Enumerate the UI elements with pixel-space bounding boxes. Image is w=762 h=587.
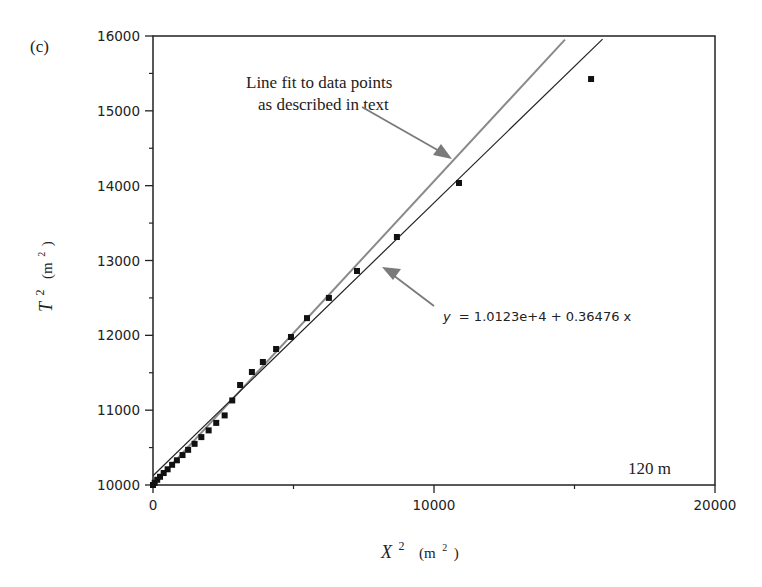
data-point <box>237 382 243 388</box>
y-axis-label: T 2 (m 2 ) <box>28 241 56 312</box>
x-axis-label: X 2 (m 2 ) <box>380 534 459 562</box>
data-point <box>304 315 310 321</box>
y-tick-label: 13000 <box>97 253 140 269</box>
data-point <box>185 447 191 453</box>
x-tick-label: 20000 <box>694 497 737 513</box>
panel-label: (c) <box>30 37 49 56</box>
x-tick-label: 10000 <box>413 497 456 513</box>
chart: (c) 10000110001200013000140001500016000 … <box>0 0 762 587</box>
annotation-text-fit-line-1: Line fit to data points <box>246 73 392 92</box>
y-axis: 10000110001200013000140001500016000 <box>97 28 153 493</box>
x-axis: 01000020000 <box>149 485 737 513</box>
data-point <box>354 268 360 274</box>
arrow-icon <box>362 107 452 159</box>
data-point <box>249 369 255 375</box>
y-tick-label: 14000 <box>97 178 140 194</box>
plot-frame <box>153 36 715 485</box>
regression-equation: y = 1.0123e+4 + 0.36476 x <box>442 309 632 324</box>
y-tick-label: 16000 <box>97 28 140 44</box>
y-tick-label: 11000 <box>97 402 140 418</box>
arrow-icon <box>382 267 434 306</box>
data-points <box>150 76 594 488</box>
data-point <box>588 76 594 82</box>
data-point <box>206 427 212 433</box>
data-point <box>229 397 235 403</box>
y-tick-label: 10000 <box>97 477 140 493</box>
data-point <box>174 457 180 463</box>
x-tick-label: 0 <box>149 497 158 513</box>
data-point <box>222 412 228 418</box>
data-point <box>273 346 279 352</box>
data-point <box>180 452 186 458</box>
distance-label: 120 m <box>628 459 671 478</box>
data-point <box>213 420 219 426</box>
data-point <box>260 359 266 365</box>
y-tick-label: 12000 <box>97 327 140 343</box>
data-point <box>198 434 204 440</box>
data-point <box>288 334 294 340</box>
data-point <box>394 234 400 240</box>
y-tick-label: 15000 <box>97 103 140 119</box>
data-point <box>456 180 462 186</box>
data-point <box>326 295 332 301</box>
data-point <box>192 441 198 447</box>
